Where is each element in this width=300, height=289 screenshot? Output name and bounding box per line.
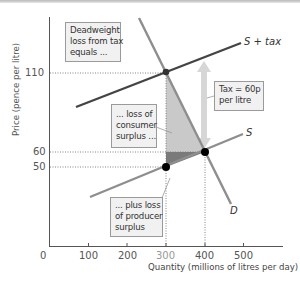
x-tick-100: 100 [79, 250, 98, 261]
deadweight-loss-note: Deadweight loss from tax equals ... [65, 22, 121, 62]
y-tick-60: 60 [33, 146, 46, 157]
tax-arrow [197, 61, 211, 149]
y-axis-label: Price (pence per litre) [11, 43, 21, 136]
tax-note: Tax = 60p per litre [214, 81, 264, 111]
note-line: ... loss of [116, 109, 152, 120]
producer-surplus-note: ... plus loss of producer surplus [110, 197, 163, 237]
x-tick-0: 0 [40, 250, 46, 261]
note-line: Deadweight [70, 25, 116, 36]
note-line: surplus ... [116, 131, 152, 142]
supplier-price-point [162, 163, 170, 171]
x-axis-label: Quantity (millions of litres per day) [148, 262, 298, 272]
note-line: of producer [115, 211, 158, 222]
y-tick-50: 50 [33, 161, 46, 172]
note-line: ... plus loss [115, 200, 158, 211]
note-line: per litre [219, 95, 259, 106]
tax-connector [207, 96, 214, 98]
x-tick-200: 200 [118, 250, 137, 261]
supply-label: S [246, 127, 252, 138]
x-ticks [89, 243, 244, 246]
note-line: equals ... [70, 47, 116, 58]
x-tick-400: 400 [195, 250, 214, 261]
tax-equilibrium-point [163, 69, 170, 76]
producer-surplus-loss-area [166, 152, 205, 167]
note-line: consumer [116, 120, 152, 131]
consumer-surplus-note: ... loss of consumer surplus ... [111, 104, 157, 148]
note-line: surplus [115, 222, 158, 233]
x-tick-500: 500 [234, 250, 253, 261]
y-tick-110: 110 [25, 67, 44, 78]
demand-label: D [230, 205, 238, 216]
x-tick-300: 300 [156, 250, 175, 261]
note-line: Tax = 60p [219, 84, 259, 95]
note-line: loss from tax [70, 36, 116, 47]
equilibrium-point [201, 148, 209, 156]
supply-plus-tax-label: S + tax [244, 36, 281, 47]
